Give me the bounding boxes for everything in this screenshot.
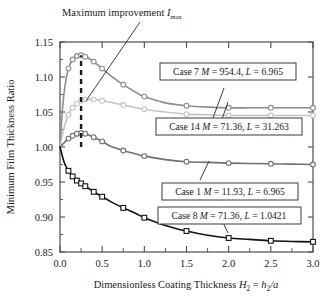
case1-l-value: = 6.965 [253,186,285,197]
case7-name: Case 7 [173,66,199,77]
y-tick-label: 0.90 [35,212,53,223]
data-marker [142,154,147,159]
case7-l-value: = 6.965 [251,66,283,77]
case8-name: Case 8 [172,210,198,221]
annotation-subscript: max [171,13,183,20]
data-marker [121,206,126,211]
y-tick-label: 0.85 [35,247,53,258]
data-marker [226,161,231,166]
data-marker [268,105,273,110]
data-marker [70,57,75,62]
data-marker [268,113,273,118]
data-marker [184,229,189,234]
data-marker [226,236,231,241]
figure-container: 0.850.900.951.001.051.101.15 0.00.51.01.… [0,0,332,299]
data-marker [91,189,96,194]
x-tick-label: 2.0 [222,258,235,269]
chart-svg: 0.850.900.951.001.051.101.15 0.00.51.01.… [0,0,332,299]
data-marker [66,168,71,173]
x-tick-label: 0.5 [96,258,109,269]
case14-m-value: = 71.36, [210,121,244,132]
case8-label-box: Case 8 M = 71.36, L = 1.0421 [158,207,301,224]
data-marker [66,66,71,71]
data-marker [184,159,189,164]
data-marker [268,238,273,243]
data-marker [184,112,189,117]
x-tick-label: 1.0 [138,258,151,269]
data-marker [142,107,147,112]
x-axis-title-a: /a [269,279,278,290]
data-marker [311,113,316,118]
x-tick-label: 3.0 [306,258,319,269]
data-marker [91,97,96,102]
case7-label-box: Case 7 M = 954.4, L = 6.965 [160,63,296,80]
maximum-improvement-annotation: Maximum improvement Imax [62,7,183,20]
data-marker [66,112,71,117]
case8-l-value: = 1.0421 [250,210,287,221]
data-marker [100,194,105,199]
data-marker [100,98,105,103]
y-tick-label: 1.15 [35,37,53,48]
data-marker [184,103,189,108]
x-axis-title-eq: = [250,279,261,290]
y-tick-label: 1.05 [35,107,53,118]
data-marker [142,94,147,99]
data-marker [142,215,147,220]
data-marker [311,239,316,244]
y-axis-title: Minimum Film Thickness Ratio [5,80,16,215]
data-marker [226,113,231,118]
data-marker [83,131,88,136]
case1-label-box: Case 1 M = 11.93, L = 6.965 [162,183,298,200]
data-marker [311,162,316,167]
data-marker [268,161,273,166]
case14-label-box: Case 14 M = 71.36, L = 31.263 [156,118,302,135]
x-tick-label: 1.5 [180,258,193,269]
data-marker [121,82,126,87]
case7-m-value: = 954.4, [209,66,243,77]
case1-name: Case 1 [175,186,201,197]
y-tick-label: 1.00 [35,142,53,153]
data-marker [121,148,126,153]
annotation-text: Maximum improvement [62,7,167,18]
case14-label-text: Case 14 M = 71.36, L = 31.263 [169,121,289,132]
data-marker [91,59,96,64]
x-axis-title-pre: Dimensionless Coating Thickness [94,279,239,290]
case7-label-text: Case 7 M = 954.4, L = 6.965 [173,66,283,77]
case14-name: Case 14 [169,121,200,132]
case1-m-value: = 11.93, [211,186,245,197]
data-marker [70,105,75,110]
y-tick-label: 1.10 [35,72,53,83]
data-marker [311,105,316,110]
data-marker [83,184,88,189]
data-marker [91,135,96,140]
case1-label-text: Case 1 M = 11.93, L = 6.965 [175,186,285,197]
data-marker [83,54,88,59]
case8-m-value: = 71.36, [208,210,242,221]
case14-l-value: = 31.263 [252,121,289,132]
data-marker [100,139,105,144]
case8-label-text: Case 8 M = 71.36, L = 1.0421 [172,210,287,221]
x-tick-label: 2.5 [264,258,277,269]
data-marker [121,103,126,108]
y-tick-label: 0.95 [35,177,53,188]
data-marker [100,66,105,71]
x-tick-label: 0.0 [53,258,66,269]
